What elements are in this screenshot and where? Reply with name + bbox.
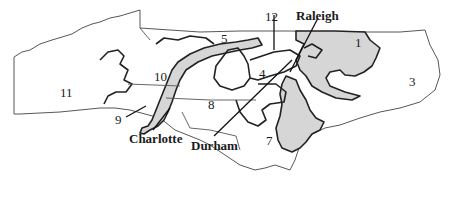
district-label-7: 7 [266,134,273,147]
city-label-durham: Durham [191,139,238,152]
district-label-8: 8 [208,98,215,111]
district-label-3: 3 [409,75,416,88]
city-label-charlotte: Charlotte [129,132,182,145]
nc-district-map: 1 3 4 5 7 8 9 10 11 12 Raleigh Charlotte… [0,0,451,199]
district-label-12: 12 [265,10,278,23]
district-label-9: 9 [115,113,122,126]
district-label-10: 10 [154,70,167,83]
district-label-5: 5 [221,32,228,45]
district-label-1: 1 [355,36,362,49]
city-label-raleigh: Raleigh [296,9,339,22]
district-label-11: 11 [60,86,73,99]
district-label-4: 4 [259,67,266,80]
